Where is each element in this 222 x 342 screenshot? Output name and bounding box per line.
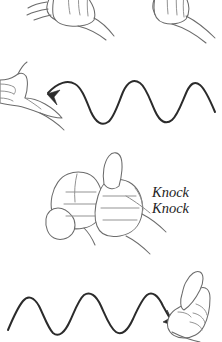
caption-line-1: Knock	[152, 184, 222, 200]
left-cropped-fist-icon	[27, 0, 114, 40]
caption-line-2: Knock	[152, 200, 222, 216]
signal-wave-left-arrow	[47, 81, 215, 124]
knock-knock-illustration: Knock Knock	[0, 0, 222, 342]
caption-knock-knock: Knock Knock	[152, 184, 222, 216]
panel-incoming-signal-wave	[0, 60, 222, 142]
thumbs-up-hand-right-icon	[167, 271, 210, 342]
panel-outgoing-signal-wave	[0, 268, 222, 342]
left-fist-icon	[46, 172, 103, 245]
right-cropped-fist-icon	[153, 0, 215, 43]
panel-two-hands-cropped	[0, 0, 222, 48]
signal-wave-right-arrow	[8, 293, 175, 334]
